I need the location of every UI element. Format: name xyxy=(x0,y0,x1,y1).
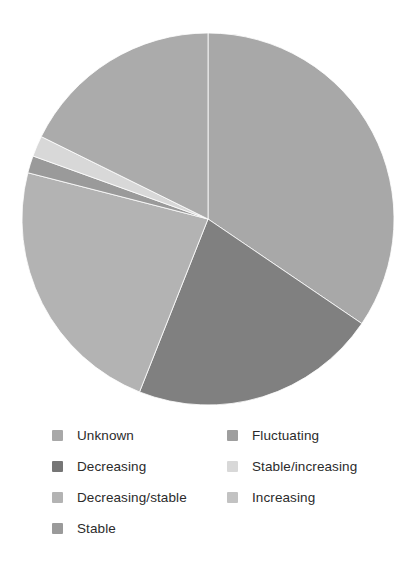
legend-swatch-icon xyxy=(227,430,238,441)
legend-swatch-icon xyxy=(227,461,238,472)
legend-item-label: Increasing xyxy=(252,490,315,505)
pie-chart-svg xyxy=(0,0,419,410)
legend-item[interactable]: Increasing xyxy=(227,482,402,513)
legend-item-label: Stable xyxy=(77,521,116,536)
legend-item[interactable]: Decreasing/stable xyxy=(52,482,227,513)
legend-swatch-icon xyxy=(52,430,63,441)
legend-item-label: Decreasing/stable xyxy=(77,490,187,505)
legend-swatch-icon xyxy=(52,523,63,534)
legend-swatch-icon xyxy=(52,492,63,503)
pie-slice-group xyxy=(22,33,394,405)
legend-column-left: UnknownDecreasingDecreasing/stableStable xyxy=(52,420,227,544)
legend-column-right: FluctuatingStable/increasingIncreasing xyxy=(227,420,402,513)
legend-swatch-icon xyxy=(52,461,63,472)
pie-chart-area xyxy=(0,0,419,410)
legend-item-label: Unknown xyxy=(77,428,134,443)
legend-item[interactable]: Stable xyxy=(52,513,227,544)
legend-swatch-icon xyxy=(227,492,238,503)
chart-legend: UnknownDecreasingDecreasing/stableStable… xyxy=(52,420,402,548)
legend-item-label: Stable/increasing xyxy=(252,459,357,474)
legend-item-label: Decreasing xyxy=(77,459,146,474)
legend-item[interactable]: Decreasing xyxy=(52,451,227,482)
pie-chart-figure: UnknownDecreasingDecreasing/stableStable… xyxy=(0,0,419,566)
legend-item[interactable]: Unknown xyxy=(52,420,227,451)
legend-item[interactable]: Fluctuating xyxy=(227,420,402,451)
legend-item-label: Fluctuating xyxy=(252,428,319,443)
legend-item[interactable]: Stable/increasing xyxy=(227,451,402,482)
